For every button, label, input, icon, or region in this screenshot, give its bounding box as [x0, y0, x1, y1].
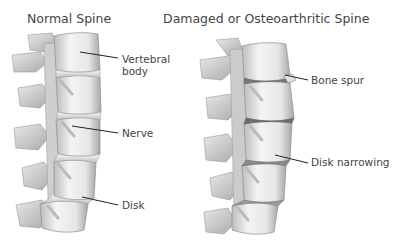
label-vertebral-body-line1: Vertebral	[122, 53, 170, 65]
label-bone-spur: Bone spur	[311, 74, 364, 86]
label-disk: Disk	[122, 199, 145, 211]
damaged-spine-title: Damaged or Osteoarthritic Spine	[163, 11, 369, 26]
label-disk-narrowing: Disk narrowing	[311, 156, 389, 168]
spine-illustration	[0, 0, 394, 245]
label-vertebral-body: Vertebral body	[122, 53, 170, 77]
label-nerve: Nerve	[122, 127, 153, 139]
label-vertebral-body-line2: body	[122, 65, 170, 77]
normal-spine	[12, 33, 101, 232]
normal-spine-title: Normal Spine	[27, 11, 111, 26]
damaged-spine	[200, 38, 296, 234]
